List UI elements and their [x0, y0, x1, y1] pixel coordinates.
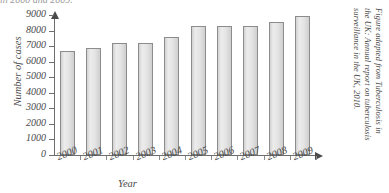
- y-axis-tick-label: 7000: [26, 39, 46, 50]
- x-axis-tick: [264, 156, 265, 160]
- bar: [60, 51, 75, 155]
- y-axis-tick: 0: [49, 155, 54, 156]
- x-axis-tick: [316, 156, 317, 160]
- y-axis-tick-label: 3000: [26, 101, 46, 112]
- y-axis-tick-label: 6000: [26, 55, 46, 66]
- y-axis-tick: 6000: [49, 62, 54, 63]
- top-heading-text: in 2000 and 2009.: [0, 0, 330, 4]
- plot-area: 0100020003000400050006000700080009000: [54, 14, 316, 156]
- bar: [112, 43, 127, 155]
- y-axis-tick: 4000: [49, 93, 54, 94]
- bar: [269, 22, 284, 155]
- y-axis-line: [54, 16, 55, 156]
- x-axis-tick: [237, 156, 238, 160]
- caption-line-3: surveillance in the UK, 2010.: [352, 8, 361, 110]
- bar: [164, 37, 179, 155]
- x-axis-tick: [211, 156, 212, 160]
- y-axis-tick-label: 8000: [26, 24, 46, 35]
- bar-chart: Number of cases 010002000300040005000600…: [0, 6, 330, 193]
- y-axis-tick: 2000: [49, 124, 54, 125]
- caption-line-2: the UK: Annual report on tuberculosis: [363, 8, 372, 141]
- bar: [217, 26, 232, 155]
- y-axis-tick-label: 2000: [26, 117, 46, 128]
- figure-page: in 2000 and 2009. Number of cases 010002…: [0, 0, 389, 193]
- y-axis-tick: 3000: [49, 108, 54, 109]
- bar: [86, 48, 101, 155]
- y-axis-tick-label: 9000: [26, 8, 46, 19]
- x-axis-tick: [106, 156, 107, 160]
- y-axis-title: Number of cases: [12, 17, 23, 127]
- y-axis-tick: 1000: [49, 139, 54, 140]
- bar: [295, 16, 310, 155]
- x-axis-tick: [290, 156, 291, 160]
- x-axis-tick: [159, 156, 160, 160]
- y-axis-tick: 8000: [49, 31, 54, 32]
- y-axis-tick-label: 5000: [26, 70, 46, 81]
- y-axis-tick-label: 1000: [26, 132, 46, 143]
- y-axis-tick-label: 4000: [26, 86, 46, 97]
- y-axis-tick: 9000: [49, 15, 54, 16]
- y-axis-tick-label: 0: [41, 148, 46, 159]
- bar: [243, 26, 258, 155]
- bar: [191, 26, 206, 155]
- x-axis-title: Year: [118, 178, 137, 189]
- top-cropped-heading: in 2000 and 2009.: [0, 0, 330, 4]
- y-axis-tick: 7000: [49, 46, 54, 47]
- x-axis-tick: [185, 156, 186, 160]
- caption-line-1: Figure adapted from Tuberculosis in: [374, 8, 383, 134]
- y-axis-tick: 5000: [49, 77, 54, 78]
- x-axis-tick: [133, 156, 134, 160]
- bar: [138, 43, 153, 155]
- x-axis-tick: [80, 156, 81, 160]
- figure-caption: Figure adapted from Tuberculosis in the …: [325, 0, 387, 193]
